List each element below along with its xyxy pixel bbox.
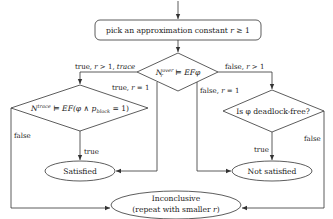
edge-true-r-eq1 (116, 82, 157, 171)
edge-true-r-gt1-trace (80, 72, 137, 84)
satisfied-terminal: Satisfied (45, 161, 115, 181)
label-trace-false: false (14, 132, 31, 140)
svg-text:Noverr ⊨ EFφ: Noverr ⊨ EFφ (155, 67, 201, 78)
inconclusive-terminal: Inconclusive (repeat with smaller r) (111, 191, 241, 219)
edge-false-r-eq1 (197, 82, 231, 171)
label-deadlock-false: false (304, 135, 321, 143)
svg-text:Is φ deadlock-free?: Is φ deadlock-free? (236, 107, 310, 116)
svg-text:pick an approximation constant: pick an approximation constant r ≥ 1 (106, 26, 250, 35)
label-true-r-gt1-trace: true, r > 1, trace (75, 63, 135, 71)
start-box: pick an approximation constant r ≥ 1 (95, 20, 261, 40)
not-satisfied-terminal: Not satisfied (232, 161, 312, 181)
svg-text:Satisfied: Satisfied (63, 167, 97, 176)
label-false-r-gt1: false, r > 1 (225, 63, 264, 71)
svg-text:(repeat with smaller r): (repeat with smaller r) (132, 205, 219, 214)
label-deadlock-true: true (254, 146, 269, 154)
label-true-r-eq1: true, r = 1 (112, 84, 149, 92)
deadlock-check-diamond: Is φ deadlock-free? (223, 90, 324, 132)
svg-text:Inconclusive: Inconclusive (152, 194, 201, 203)
label-trace-true: true (84, 148, 99, 156)
svg-text:Not satisfied: Not satisfied (248, 167, 297, 176)
label-false-r-eq1: false, r = 1 (200, 87, 239, 95)
flowchart: pick an approximation constant r ≥ 1 Nov… (0, 0, 333, 219)
